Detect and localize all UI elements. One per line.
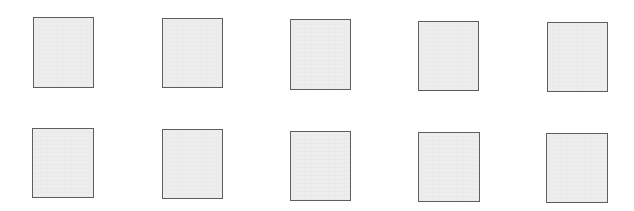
blank-card-r2-c1 <box>32 128 94 198</box>
blank-card-r2-c2 <box>162 129 223 199</box>
blank-card-r2-c3 <box>290 131 351 201</box>
blank-card-r1-c1 <box>33 17 94 88</box>
blank-card-r1-c4 <box>418 21 479 91</box>
blank-card-r1-c2 <box>162 18 223 88</box>
blank-card-r2-c5 <box>546 133 608 203</box>
blank-card-r1-c3 <box>290 19 351 90</box>
canvas <box>0 0 634 211</box>
blank-card-r2-c4 <box>418 132 480 202</box>
blank-card-r1-c5 <box>547 22 608 92</box>
